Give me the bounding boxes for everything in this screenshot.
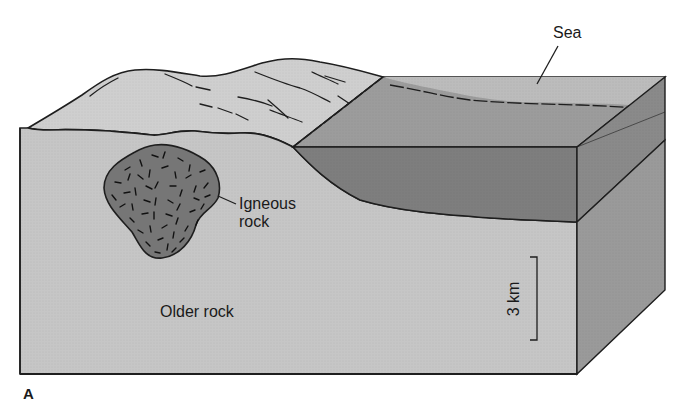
block-diagram-svg [0, 0, 692, 409]
scale-label: 3 km [505, 279, 523, 319]
igneous-rock-label-line2: rock [239, 213, 269, 231]
igneous-rock-label-line1: Igneous [239, 195, 296, 213]
sea-label: Sea [553, 24, 581, 42]
panel-letter: A [23, 385, 34, 403]
older-rock-label: Older rock [160, 303, 234, 321]
block-diagram: Sea Igneous rock Older rock 3 km A [0, 0, 692, 409]
